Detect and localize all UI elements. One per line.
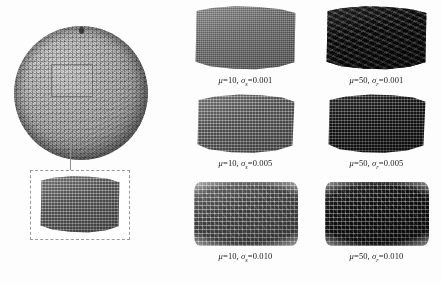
patch-caption: μ=50, σr=0.010 xyxy=(311,251,442,263)
sigma-value: 0.010 xyxy=(384,251,404,261)
patch-caption: μ=50, σr=0.001 xyxy=(311,75,442,87)
patch-shading xyxy=(326,94,428,154)
mu-value: 50 xyxy=(359,251,368,261)
patch-thumb xyxy=(180,4,311,72)
sphere-pole-marker xyxy=(79,27,84,34)
patch-caption: μ=10, σs=0.005 xyxy=(180,158,311,170)
patch-grid-panel: μ=10, σs=0.001 μ=50, σr=0.001 xyxy=(180,0,442,283)
sigma-value: 0.005 xyxy=(384,158,404,168)
patch-caption: μ=50, σr=0.005 xyxy=(311,158,442,170)
callout-leader-line xyxy=(70,138,71,170)
patch-surface xyxy=(325,182,429,246)
patch-thumb xyxy=(311,4,442,72)
patch-thumb xyxy=(311,180,442,248)
grid-cell: μ=10, σs=0.005 xyxy=(180,93,311,170)
sphere-body xyxy=(14,26,148,160)
mu-value: 10 xyxy=(228,75,237,85)
grid-cell: μ=10, σs=0.010 xyxy=(180,180,311,263)
figure-root: μ=10, σs=0.001 μ=50, σr=0.001 xyxy=(0,0,442,283)
sigma-value: 0.001 xyxy=(384,75,404,85)
callout-patch-surface xyxy=(39,176,121,233)
sigma-value: 0.010 xyxy=(253,251,273,261)
patch-thumb xyxy=(180,93,311,155)
patch-shading xyxy=(194,6,298,70)
tessellated-sphere xyxy=(14,26,148,160)
patch-surface xyxy=(326,94,428,154)
callout-patch-shading xyxy=(39,176,121,233)
callout-patch xyxy=(39,176,121,233)
mu-value: 10 xyxy=(228,251,237,261)
grid-cell: μ=50, σr=0.001 xyxy=(311,4,442,87)
patch-shading xyxy=(195,94,297,154)
patch-caption: μ=10, σs=0.001 xyxy=(180,75,311,87)
sigma-value: 0.005 xyxy=(253,158,273,168)
grid-cell: μ=50, σr=0.010 xyxy=(311,180,442,263)
grid-cell: μ=50, σr=0.005 xyxy=(311,93,442,170)
mu-value: 10 xyxy=(228,158,237,168)
patch-surface xyxy=(325,6,429,70)
patch-surface xyxy=(194,182,298,246)
patch-caption: μ=10, σs=0.010 xyxy=(180,251,311,263)
patch-thumb xyxy=(180,180,311,248)
mu-value: 50 xyxy=(359,158,368,168)
sigma-value: 0.001 xyxy=(253,75,273,85)
patch-surface xyxy=(195,94,297,154)
magnified-patch-callout xyxy=(30,170,130,240)
patch-shading xyxy=(194,182,298,246)
sphere-panel xyxy=(0,0,180,283)
mu-value: 50 xyxy=(359,75,368,85)
patch-surface xyxy=(194,6,298,70)
patch-shading xyxy=(325,182,429,246)
patch-shading xyxy=(325,6,429,70)
grid-cell: μ=10, σs=0.001 xyxy=(180,4,311,87)
patch-thumb xyxy=(311,93,442,155)
region-of-interest-box xyxy=(51,64,93,97)
